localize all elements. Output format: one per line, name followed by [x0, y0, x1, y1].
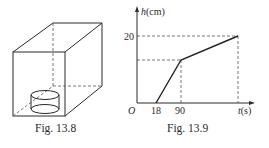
box-edge — [65, 86, 102, 116]
y-axis-label: h(cm) — [141, 6, 165, 18]
dashed-guides — [137, 36, 238, 103]
box-edge — [65, 23, 102, 52]
caption-fig-13-8: Fig. 13.8 — [35, 122, 76, 135]
box-diagram — [13, 23, 102, 116]
tick-label-18: 18 — [151, 105, 161, 116]
box-edge — [13, 23, 53, 52]
origin-label: O — [128, 105, 135, 116]
cylinder — [31, 91, 59, 114]
figure-canvas: h(cm) 20 O 18 90 t(s) Fig. 13.8 Fig. 13.… — [0, 0, 269, 148]
x-axis-label: t(s) — [238, 105, 251, 117]
y-axis-arrow-icon — [135, 6, 139, 12]
data-line — [156, 36, 238, 103]
graph: h(cm) 20 O 18 90 t(s) — [124, 6, 255, 117]
tick-label-20: 20 — [124, 31, 134, 42]
tick-label-90: 90 — [175, 105, 185, 116]
caption-fig-13-9: Fig. 13.9 — [167, 122, 208, 135]
box-hidden-edges — [13, 23, 102, 116]
